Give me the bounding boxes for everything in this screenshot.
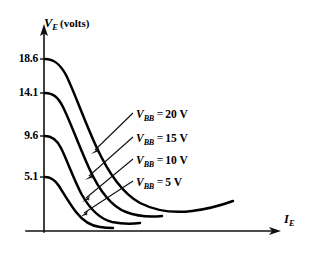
y-tick-label-14-1: 14.1	[8, 86, 38, 98]
leader-arrow-5v-icon	[80, 211, 88, 217]
y-tick-label-9-6: 9.6	[8, 129, 38, 141]
series-label-vbb-15v: VBB=15 V	[136, 132, 188, 147]
curve-vbb-10v	[45, 136, 140, 224]
series-subscript: BB	[144, 138, 154, 147]
series-equals: =	[154, 176, 166, 188]
series-label-vbb-5v: VBB=5 V	[136, 176, 182, 191]
series-value: 15 V	[165, 132, 187, 144]
x-axis-subscript: E	[289, 218, 295, 228]
leader-line-5v	[84, 181, 133, 213]
series-subscript: BB	[144, 160, 154, 169]
series-symbol: V	[136, 176, 144, 188]
series-equals: =	[154, 154, 166, 166]
y-tick-label-18-6: 18.6	[8, 52, 38, 64]
series-value: 20 V	[165, 108, 187, 120]
characteristic-curves-plot	[0, 0, 311, 260]
series-symbol: V	[136, 132, 144, 144]
series-subscript: BB	[144, 114, 154, 123]
y-axis-unit: (volts)	[58, 17, 89, 29]
y-tick-label-5-1: 5.1	[8, 170, 38, 182]
leader-line-20v	[95, 113, 133, 150]
x-axis-title: IE	[284, 212, 295, 228]
series-equals: =	[154, 132, 166, 144]
axis-group	[26, 24, 281, 235]
series-equals: =	[154, 108, 166, 120]
y-axis-title: VE(volts)	[44, 16, 89, 32]
series-value: 5 V	[165, 176, 182, 188]
figure-root: 18.6 14.1 9.6 5.1 VE(volts) IE VBB=20 V …	[0, 0, 311, 260]
series-label-vbb-20v: VBB=20 V	[136, 108, 188, 123]
series-symbol: V	[136, 154, 144, 166]
series-symbol: V	[136, 108, 144, 120]
series-label-vbb-10v: VBB=10 V	[136, 154, 188, 169]
series-value: 10 V	[165, 154, 187, 166]
series-subscript: BB	[144, 182, 154, 191]
